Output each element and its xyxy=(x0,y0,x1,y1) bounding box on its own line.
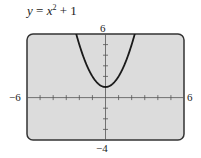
xmin-label: −6 xyxy=(9,91,21,103)
ymin-label: −4 xyxy=(96,142,108,154)
xmax-label: 6 xyxy=(187,91,193,103)
ymax-label: 6 xyxy=(100,22,106,34)
